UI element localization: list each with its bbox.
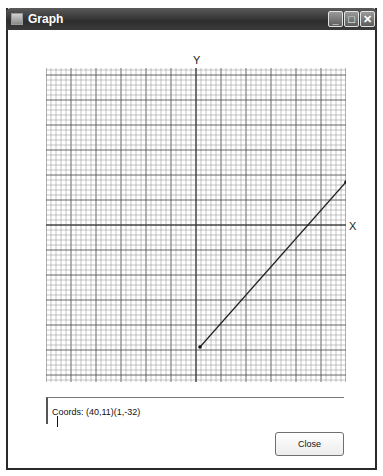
text-caret <box>57 416 58 427</box>
y-axis-label: Y <box>193 54 200 66</box>
app-icon <box>11 13 23 25</box>
line-start-point <box>198 345 202 349</box>
window-title: Graph <box>28 12 63 26</box>
maximize-button[interactable]: □ <box>344 11 359 27</box>
x-axis-label: X <box>349 220 356 232</box>
close-button[interactable]: Close <box>275 432 344 456</box>
graph-canvas[interactable] <box>46 68 346 382</box>
coords-textbox[interactable]: Coords: (40,11)(1,-32) <box>46 397 344 424</box>
coords-text: Coords: (40,11)(1,-32) <box>52 407 140 417</box>
close-window-button[interactable]: ✕ <box>360 11 375 27</box>
plotted-line <box>200 182 346 347</box>
title-bar[interactable]: Graph _ □ ✕ <box>6 8 377 30</box>
minimize-button[interactable]: _ <box>328 11 343 27</box>
